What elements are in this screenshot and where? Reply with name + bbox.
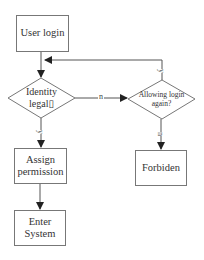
- node-identity-legal-text: Identity legal▯: [8, 82, 75, 114]
- edge-label-allow-no: n: [156, 132, 164, 136]
- identity-label-line2: legal▯: [29, 98, 54, 110]
- allow-label-line1: Allowing login: [139, 90, 185, 99]
- node-user-login: User login: [16, 15, 69, 52]
- edge-allow-loop-back: [45, 60, 162, 80]
- allow-label-line2: again?: [152, 99, 172, 108]
- node-user-login-label: User login: [20, 27, 64, 40]
- flowchart-canvas: User login Assign permission Enter Syste…: [0, 0, 204, 260]
- node-allowing-login-text: Allowing login again?: [128, 86, 195, 112]
- node-assign-permission: Assign permission: [14, 148, 67, 184]
- edge-label-allow-yes: y: [157, 69, 165, 73]
- node-enter-system: Enter System: [14, 210, 66, 246]
- node-assign-label-line1: Assign: [26, 154, 55, 167]
- node-enter-label-line2: System: [25, 228, 56, 241]
- node-forbiden-label: Forbiden: [142, 162, 180, 175]
- edge-label-identity-no: n: [98, 93, 104, 101]
- node-enter-label-line1: Enter: [29, 216, 52, 229]
- node-assign-label-line2: permission: [17, 166, 63, 179]
- edge-label-identity-yes: y: [36, 130, 44, 134]
- identity-label-line1: Identity: [26, 86, 57, 98]
- node-forbiden: Forbiden: [135, 150, 187, 186]
